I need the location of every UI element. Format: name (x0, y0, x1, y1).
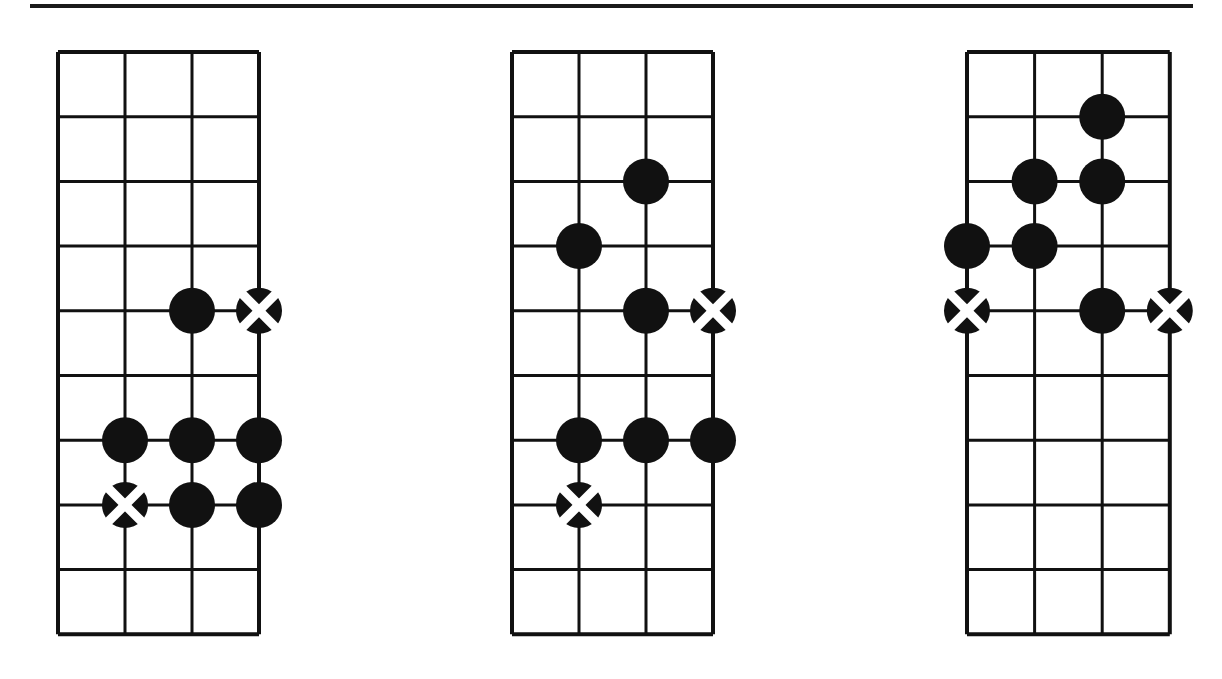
dot-circle (690, 417, 736, 463)
filled-dot-marker-s2-f6[interactable] (556, 417, 602, 463)
fretboard-diagram-2 (483, 23, 742, 663)
filled-dot-marker-s4-f6[interactable] (690, 417, 736, 463)
fret-lines (967, 52, 1170, 634)
filled-dot-marker-s3-f1[interactable] (1079, 94, 1125, 140)
dot-circle (1079, 94, 1125, 140)
note-markers (944, 94, 1193, 334)
page-canvas (0, 0, 1222, 679)
dot-circle (1012, 223, 1058, 269)
dot-circle (556, 417, 602, 463)
filled-dot-marker-s2-f2[interactable] (1012, 158, 1058, 204)
filled-dot-marker-s2-f3[interactable] (1012, 223, 1058, 269)
string-lines (58, 52, 259, 634)
dot-circle (944, 223, 990, 269)
dot-circle (1012, 158, 1058, 204)
filled-dot-marker-s3-f6[interactable] (623, 417, 669, 463)
dot-circle (623, 158, 669, 204)
dot-circle (236, 417, 282, 463)
crossed-dot-marker-s4-f4[interactable] (1147, 288, 1193, 334)
fretboard-diagram-3 (938, 23, 1199, 663)
dot-circle (556, 223, 602, 269)
filled-dot-marker-s3-f4[interactable] (169, 288, 215, 334)
crossed-dot-marker-s4-f4[interactable] (236, 288, 282, 334)
filled-dot-marker-s3-f4[interactable] (623, 288, 669, 334)
filled-dot-marker-s3-f4[interactable] (1079, 288, 1125, 334)
crossed-dot-marker-s4-f4[interactable] (690, 288, 736, 334)
crossed-dot-marker-s2-f7[interactable] (556, 482, 602, 528)
crossed-dot-marker-s1-f4[interactable] (944, 288, 990, 334)
filled-dot-marker-s1-f3[interactable] (944, 223, 990, 269)
fret-lines (58, 52, 259, 634)
dot-circle (623, 417, 669, 463)
dot-circle (169, 482, 215, 528)
string-lines (967, 52, 1170, 634)
filled-dot-marker-s2-f6[interactable] (102, 417, 148, 463)
fretboard-diagram-1 (29, 23, 288, 663)
dot-circle (1079, 288, 1125, 334)
filled-dot-marker-s4-f6[interactable] (236, 417, 282, 463)
filled-dot-marker-s3-f7[interactable] (169, 482, 215, 528)
fretboard-diagram-3-canvas (938, 23, 1199, 663)
dot-circle (623, 288, 669, 334)
filled-dot-marker-s4-f7[interactable] (236, 482, 282, 528)
dot-circle (1079, 158, 1125, 204)
string-lines (512, 52, 713, 634)
dot-circle (236, 482, 282, 528)
filled-dot-marker-s3-f2[interactable] (623, 158, 669, 204)
dot-circle (102, 417, 148, 463)
fretboard-diagram-1-canvas (29, 23, 288, 663)
dot-circle (169, 288, 215, 334)
dot-circle (169, 417, 215, 463)
fret-lines (512, 52, 713, 634)
top-horizontal-rule (30, 4, 1193, 8)
filled-dot-marker-s3-f6[interactable] (169, 417, 215, 463)
fretboard-diagram-2-canvas (483, 23, 742, 663)
filled-dot-marker-s3-f2[interactable] (1079, 158, 1125, 204)
crossed-dot-marker-s2-f7[interactable] (102, 482, 148, 528)
filled-dot-marker-s2-f3[interactable] (556, 223, 602, 269)
